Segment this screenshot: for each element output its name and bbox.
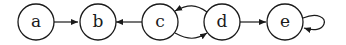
node-b: b <box>80 4 116 40</box>
node-b-label: b <box>93 11 104 31</box>
node-e-label: e <box>280 11 290 31</box>
node-a-label: a <box>31 11 41 31</box>
edge-c-d <box>175 33 207 38</box>
node-c-label: c <box>155 11 165 31</box>
edge-d-c <box>175 6 207 12</box>
graph-diagram: a b c d e <box>0 0 346 45</box>
node-c: c <box>142 4 178 40</box>
node-d: d <box>204 4 240 40</box>
node-e: e <box>267 4 303 40</box>
node-a: a <box>18 4 54 40</box>
edge-e-e-loop <box>303 16 324 30</box>
node-d-label: d <box>217 11 228 31</box>
